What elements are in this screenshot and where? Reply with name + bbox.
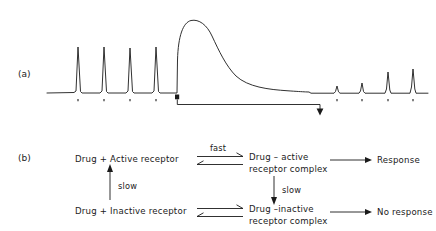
rate-label-fast: fast [210, 143, 227, 153]
panel-a-group: (a) [18, 20, 428, 115]
arrow-slow-left-up: slow [107, 164, 137, 200]
node-drug-inactive-complex-line2: receptor complex [249, 216, 328, 226]
rate-label-slow-left: slow [118, 181, 137, 191]
figure-container: (a) [0, 0, 436, 231]
equilibrium-arrow-fast: fast [197, 143, 243, 165]
node-drug-active-complex-line1: Drug – active [249, 152, 309, 162]
application-start-marker [175, 95, 179, 100]
rate-label-slow-right: slow [282, 185, 301, 195]
figure-svg: (a) [0, 0, 436, 231]
arrow-to-response [330, 157, 372, 163]
equilibrium-arrow-slow-bottom [197, 205, 243, 217]
slow-left-arrowhead [107, 164, 113, 172]
response-arrowhead [365, 157, 372, 163]
panel-b-group: (b) Drug + Active receptor fast Drug – a… [18, 143, 433, 226]
node-drug-active-receptor: Drug + Active receptor [75, 154, 179, 164]
panel-b-label: (b) [18, 153, 31, 163]
node-response: Response [377, 155, 420, 165]
node-drug-inactive-receptor: Drug + Inactive receptor [75, 206, 187, 216]
panel-a-label: (a) [18, 69, 31, 79]
arrow-slow-right-down: slow [271, 176, 301, 205]
drug-application-bar [175, 95, 323, 116]
node-no-response: No response [377, 207, 433, 217]
contraction-trace [47, 20, 428, 93]
application-end-arrowhead [317, 109, 324, 116]
arrow-to-no-response [330, 209, 372, 215]
node-drug-active-complex-line2: receptor complex [249, 164, 328, 174]
stimulus-marks [78, 99, 413, 101]
no-response-arrowhead [365, 209, 372, 215]
node-drug-inactive-complex-line1: Drug –inactive [249, 204, 314, 214]
